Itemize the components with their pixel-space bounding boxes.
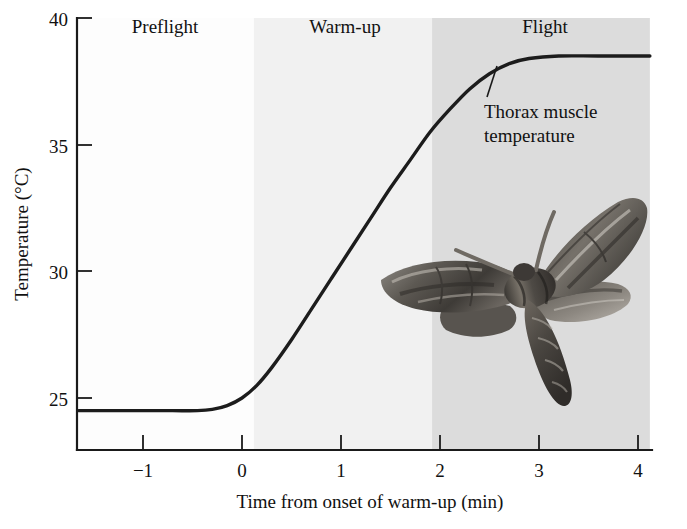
x-tick-label-1: 1 xyxy=(336,460,346,481)
y-tick-label-35: 35 xyxy=(49,136,68,157)
y-tick-label-40: 40 xyxy=(49,9,68,30)
x-tick-label-2: 2 xyxy=(435,460,445,481)
phase-bands xyxy=(79,18,650,450)
x-tick-label-4: 4 xyxy=(633,460,643,481)
x-axis-title: Time from onset of warm-up (min) xyxy=(237,491,504,513)
y-tick-label-30: 30 xyxy=(49,262,68,283)
x-tick-label-3: 3 xyxy=(534,460,544,481)
phase-label-warmup: Warm-up xyxy=(309,16,380,37)
phase-band-preflight xyxy=(79,18,254,450)
x-tick-label-0: 0 xyxy=(237,460,247,481)
x-tick-label--1: −1 xyxy=(133,460,153,481)
figure-container: Preflight Warm-up Flight 40 35 30 25 −1 … xyxy=(0,0,687,529)
temperature-chart: Preflight Warm-up Flight 40 35 30 25 −1 … xyxy=(0,0,687,529)
phase-band-flight xyxy=(432,18,650,450)
y-axis-title: Temperature (°C) xyxy=(11,167,33,300)
y-tick-label-25: 25 xyxy=(49,389,68,410)
phase-label-flight: Flight xyxy=(522,16,568,37)
phase-label-preflight: Preflight xyxy=(132,16,199,37)
phase-band-warmup xyxy=(254,18,432,450)
